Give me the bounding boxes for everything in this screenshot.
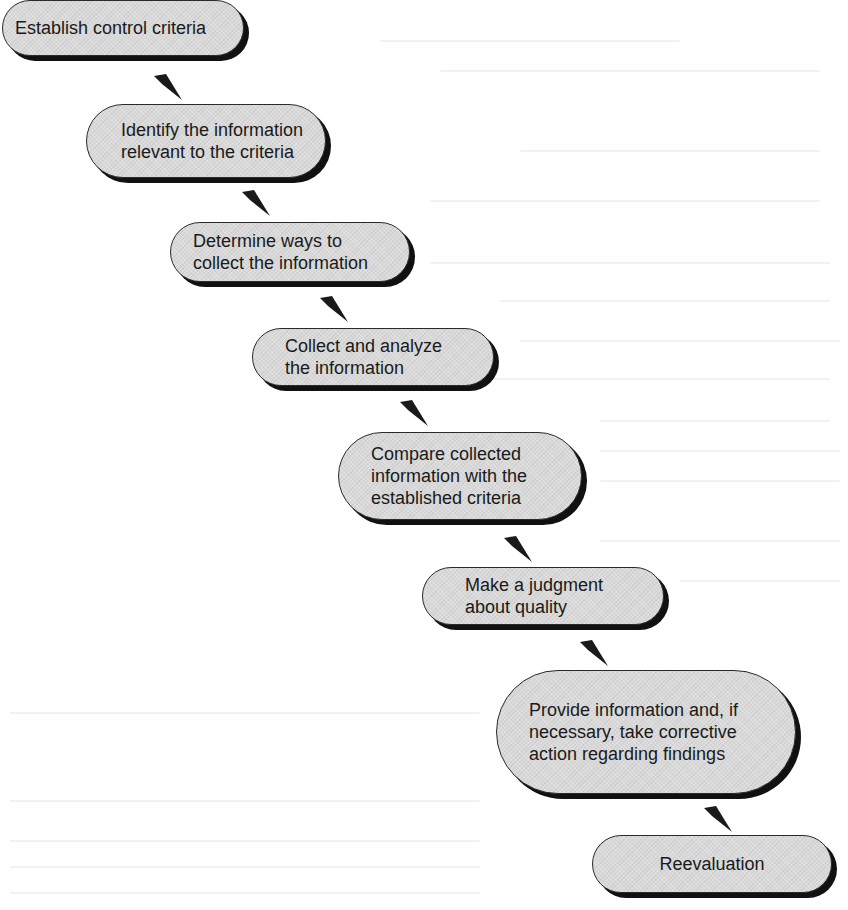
step-label: Provide information and, if necessary, t… <box>529 699 738 765</box>
step-establish-criteria: Establish control criteria <box>2 0 244 56</box>
arrow-icon <box>578 636 610 668</box>
arrow-icon <box>398 396 430 428</box>
step-label: Make a judgment about quality <box>465 574 603 618</box>
step-label: Collect and analyze the information <box>285 335 442 379</box>
arrow-icon <box>502 532 534 564</box>
step-identify-information: Identify the information relevant to the… <box>86 104 326 178</box>
step-label: Reevaluation <box>659 853 764 875</box>
arrow-icon <box>318 292 350 324</box>
step-determine-ways: Determine ways to collect the informatio… <box>170 222 410 282</box>
step-make-judgment: Make a judgment about quality <box>422 567 664 625</box>
arrow-icon <box>240 186 272 218</box>
step-label: Determine ways to collect the informatio… <box>193 230 368 274</box>
step-compare-information: Compare collected information with the e… <box>338 432 582 520</box>
step-reevaluation: Reevaluation <box>592 835 832 893</box>
step-label: Identify the information relevant to the… <box>121 119 303 163</box>
arrow-icon <box>702 802 734 834</box>
arrow-icon <box>152 70 184 102</box>
step-collect-analyze: Collect and analyze the information <box>252 328 494 386</box>
step-provide-information: Provide information and, if necessary, t… <box>496 670 796 794</box>
step-label: Compare collected information with the e… <box>371 443 527 509</box>
step-label: Establish control criteria <box>15 17 206 39</box>
